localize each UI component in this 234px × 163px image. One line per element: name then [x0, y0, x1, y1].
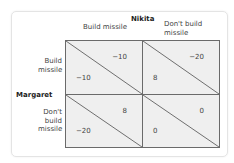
column-payoff: 0: [200, 107, 204, 115]
row-payoff: 0: [153, 127, 157, 135]
column-payoff: −20: [189, 53, 204, 61]
cell-dontbuild-dontbuild: 0 0: [142, 94, 220, 148]
column-strategy-dont-build: Don't build missile: [164, 20, 210, 37]
row-payoff: −20: [76, 127, 91, 135]
diagonal-divider: [66, 95, 142, 147]
row-payoff: 8: [153, 74, 157, 82]
diagonal-divider: [143, 95, 219, 147]
column-player-label: Nikita: [131, 15, 154, 24]
diagonal-divider: [143, 41, 219, 94]
diagonal-divider: [66, 41, 142, 94]
row-strategy-dont-build: Don't build missile: [38, 108, 62, 134]
column-strategy-build: Build missile: [83, 23, 127, 32]
row-player-label: Margaret: [16, 91, 52, 100]
cell-build-build: −10 −10: [65, 40, 143, 95]
cell-build-dontbuild: −20 8: [142, 40, 220, 95]
cell-dontbuild-build: 8 −20: [65, 94, 143, 148]
column-payoff: −10: [112, 53, 127, 61]
row-strategy-build: Build missile: [38, 57, 62, 74]
payoff-matrix: −10 −10 −20 8 8 −20 0 0: [65, 40, 220, 148]
column-payoff: 8: [123, 107, 127, 115]
row-payoff: −10: [76, 74, 91, 82]
